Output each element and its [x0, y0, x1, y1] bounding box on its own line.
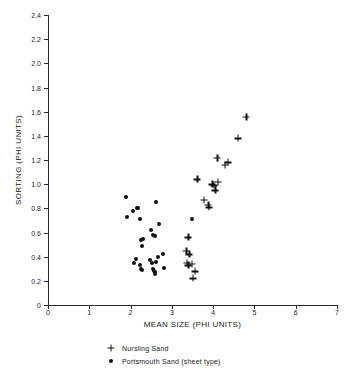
data-point-series-0: [189, 275, 196, 282]
data-point-series-1: [138, 217, 142, 221]
data-point-series-0: [194, 176, 201, 183]
data-point-series-1: [157, 222, 161, 226]
data-point-series-0: [243, 113, 250, 120]
y-axis-title: SORTING (PHI UNITS): [14, 15, 23, 305]
data-point-series-0: [188, 260, 195, 267]
data-point-series-0: [215, 178, 222, 185]
data-point-series-1: [153, 234, 157, 238]
x-axis-line: [48, 305, 337, 306]
data-point-series-1: [153, 272, 157, 276]
data-point-series-1: [139, 238, 143, 242]
data-point-series-1: [125, 215, 129, 219]
data-point-series-1: [190, 217, 194, 221]
legend-label: Portsmouth Sand (sheet type): [122, 355, 221, 368]
data-point-series-0: [234, 135, 241, 142]
data-point-series-0: [206, 204, 213, 211]
data-point-series-1: [156, 255, 160, 259]
data-point-series-1: [131, 209, 135, 213]
data-point-series-1: [140, 268, 144, 272]
legend-label: Nursling Sand: [122, 342, 169, 355]
data-point-series-1: [162, 266, 166, 270]
data-point-series-1: [140, 244, 144, 248]
legend-item: Portsmouth Sand (sheet type): [108, 355, 347, 368]
data-point-series-1: [161, 252, 165, 256]
data-point-series-1: [149, 228, 153, 232]
data-point-series-0: [212, 187, 219, 194]
data-point-series-0: [191, 268, 198, 275]
data-point-series-0: [214, 154, 221, 161]
data-point-series-1: [136, 206, 140, 210]
data-point-series-1: [154, 260, 158, 264]
data-point-series-1: [134, 257, 138, 261]
data-point-series-0: [224, 159, 231, 166]
scatter-chart: 00.20.40.60.81.01.21.41.61.82.02.22.4 01…: [0, 0, 347, 376]
chart-legend: Nursling SandPortsmouth Sand (sheet type…: [108, 342, 347, 368]
legend-item: Nursling Sand: [108, 342, 347, 355]
data-point-series-0: [186, 251, 193, 258]
data-point-series-1: [154, 200, 158, 204]
x-axis-title: MEAN SIZE (PHI UNITS): [48, 320, 337, 329]
data-point-series-0: [185, 234, 192, 241]
data-point-series-1: [132, 261, 136, 265]
data-point-series-1: [124, 195, 128, 199]
